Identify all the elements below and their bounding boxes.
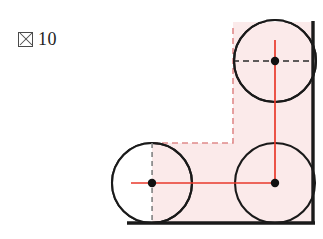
figure-diagram-canvas (0, 0, 323, 239)
center-dot-bottom-left (148, 179, 156, 187)
figure-container: 10 (0, 0, 323, 239)
dashed-step-outline-pink (150, 28, 233, 143)
center-dot-bottom-right (271, 179, 279, 187)
center-dot-top-right (271, 57, 279, 65)
